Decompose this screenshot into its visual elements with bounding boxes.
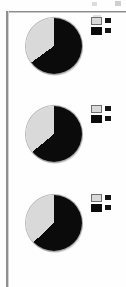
legend-swatch-light: [91, 194, 102, 202]
pie-graphic: [26, 195, 82, 251]
legend-swatch-dark: [91, 27, 102, 35]
legend-entry-light: [91, 16, 121, 25]
figure-page: [0, 0, 126, 287]
scan-artifact: [92, 2, 97, 6]
pie-chart-2: [26, 106, 82, 162]
legend-swatch-light: [91, 17, 102, 25]
legend-label-smudge-icon: [105, 205, 111, 210]
pie-graphic: [26, 106, 82, 162]
legend-entry-dark: [91, 114, 121, 123]
legend-swatch-light: [91, 105, 102, 113]
legend-swatch-dark: [91, 204, 102, 212]
legend-entry-light: [91, 193, 121, 202]
pie-slices: [26, 18, 82, 74]
chart-row: [0, 193, 126, 275]
legend-label-smudge-icon: [105, 106, 111, 111]
legend-entry-light: [91, 104, 121, 113]
chart-row: [0, 16, 126, 98]
legend-entry-dark: [91, 203, 121, 212]
pie-slices: [26, 106, 82, 162]
legend-swatch-dark: [91, 115, 102, 123]
pie-slices: [26, 195, 82, 251]
legend-label-smudge-icon: [105, 18, 111, 23]
chart-row: [0, 104, 126, 186]
scan-artifact: [115, 1, 121, 6]
pie-graphic: [26, 18, 82, 74]
legend-2: [91, 104, 121, 124]
legend-entry-dark: [91, 26, 121, 35]
pie-chart-1: [26, 18, 82, 74]
frame-top-border-shadow: [6, 12, 126, 13]
legend-1: [91, 16, 121, 36]
legend-3: [91, 193, 121, 213]
legend-label-smudge-icon: [105, 116, 111, 121]
pie-chart-3: [26, 195, 82, 251]
legend-label-smudge-icon: [105, 28, 111, 33]
legend-label-smudge-icon: [105, 195, 111, 200]
